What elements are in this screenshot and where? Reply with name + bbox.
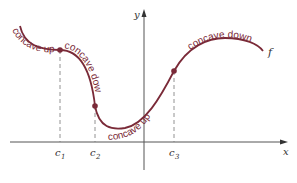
x-axis — [10, 140, 288, 145]
region-label-concave-up-2: concave up — [108, 111, 153, 142]
tick-c2: c 2 — [90, 147, 101, 161]
function-label: f — [267, 46, 274, 59]
concavity-diagram: x y concave up concave down concave up c… — [0, 0, 297, 183]
c2-subscript: 2 — [95, 153, 101, 161]
y-axis-label: y — [133, 9, 140, 20]
tick-c3: c 3 — [169, 147, 180, 161]
y-axis-arrow-icon — [142, 9, 147, 17]
x-axis-label: x — [283, 146, 289, 157]
inflection-point-c1 — [57, 47, 63, 53]
inflection-point-c3 — [171, 68, 177, 74]
tick-c1: c 1 — [55, 147, 65, 161]
function-curve — [20, 26, 263, 129]
x-axis-arrow-icon — [280, 140, 288, 145]
c1-subscript: 1 — [61, 153, 65, 161]
inflection-point-c2 — [92, 103, 98, 109]
y-axis — [142, 9, 147, 170]
c3-subscript: 3 — [175, 153, 180, 161]
region-label-concave-down-2: concave down — [185, 28, 254, 51]
region-label-concave-up-1: concave up — [10, 26, 55, 55]
